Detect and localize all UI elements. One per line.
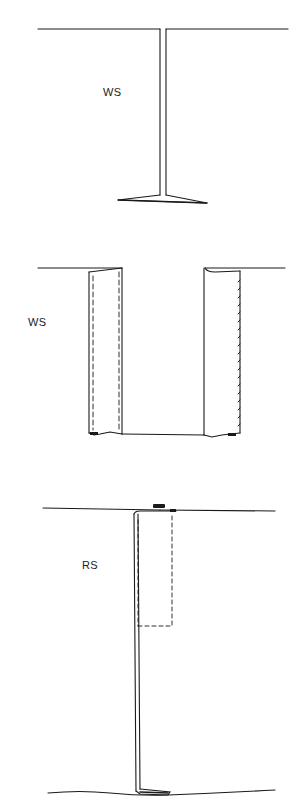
panel-3-side-label: RS — [82, 559, 98, 571]
panel-1-plain-seam: WS — [0, 0, 308, 220]
panel-3-drawing — [0, 490, 308, 812]
panel-1-drawing — [0, 0, 308, 220]
panel-3-folded-seam: RS — [0, 490, 308, 812]
panel-2-drawing — [0, 250, 308, 470]
panel-2-side-label: WS — [28, 316, 46, 328]
panel-2-open-seam: WS — [0, 250, 308, 470]
panel-1-side-label: WS — [103, 86, 121, 98]
